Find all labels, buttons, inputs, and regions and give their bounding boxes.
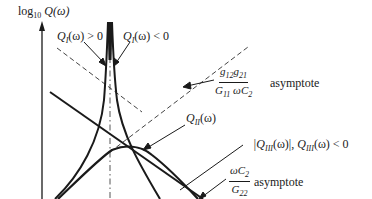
y-axis-label: log10 Q(ω) [18,5,69,20]
resonance-spike [108,22,113,60]
diagram-canvas [0,0,372,199]
label-asymptote-low-fraction: ωC2 G22 [229,165,250,198]
label-asymptote-low-suffix: asymptote [254,176,303,188]
label-q-i-positive: QI(ω) > 0 [57,30,103,45]
label-q-iii: |QIII(ω)|, QIII(ω) < 0 [253,138,349,153]
label-q-i-negative: QI(ω) < 0 [123,30,169,45]
asymptote-low-dashed [110,47,248,152]
label-asymptote-high-fraction: g12g21 G11 ωC2 [215,66,252,99]
curve-q-iii [50,92,203,199]
y-axis [39,21,45,199]
curve-q-i-negative [112,22,160,199]
curve-q-ii [58,147,198,199]
label-asymptote-high-suffix: asymptote [270,77,319,89]
label-q-ii: QII(ω) [186,112,216,127]
curve-q-i-positive [55,22,108,199]
